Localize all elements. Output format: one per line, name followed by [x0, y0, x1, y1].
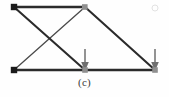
joint-top-left — [11, 4, 17, 10]
joint-bottom-middle — [82, 67, 88, 73]
joint-bottom-left — [11, 67, 17, 73]
joint-top-middle — [82, 4, 88, 10]
figure-container: (c) — [0, 0, 169, 97]
figure-caption: (c) — [0, 76, 169, 89]
faint-artifact-mark — [152, 5, 158, 11]
joint-bottom-right — [152, 67, 158, 73]
member-diagonal-BE — [85, 7, 155, 70]
